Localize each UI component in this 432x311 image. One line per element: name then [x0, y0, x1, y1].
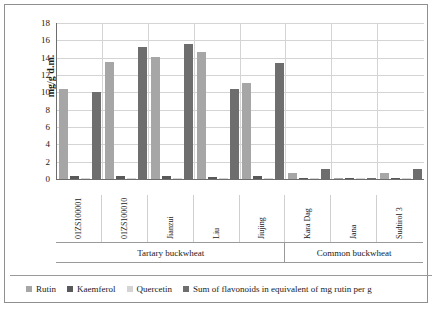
legend-item[interactable]: Quercetin: [127, 284, 172, 294]
category-label: 01ZS100010: [120, 198, 129, 239]
bar: [334, 178, 343, 179]
bar: [391, 178, 400, 179]
category-label-cell: Liu: [194, 195, 240, 242]
category-label-cell: Jiujing: [240, 195, 286, 242]
legend-swatch-icon: [127, 286, 133, 292]
category-label: Jianzui: [166, 216, 175, 239]
group-label-cell: Common buckwheat: [285, 243, 423, 262]
legend-label: Rutin: [36, 284, 56, 294]
bar: [242, 83, 251, 179]
bar: [70, 176, 79, 179]
y-tick-label: 8: [46, 106, 51, 114]
bar: [162, 176, 171, 179]
bar: [402, 178, 411, 179]
category-label: 01ZS100001: [74, 198, 83, 239]
group-label-cell: Tartary buckwheat: [56, 243, 285, 262]
legend-item[interactable]: Rutin: [26, 284, 56, 294]
group-label-row: Tartary buckwheatCommon buckwheat: [56, 243, 423, 263]
y-tick-label: 18: [41, 19, 50, 27]
chart-figure: mg/g d.m. 181614121086420 01ZS10000101ZS…: [0, 0, 432, 311]
bar: [413, 169, 422, 179]
chart-legend: RutinKaemferolQuercetinSum of flavonoids…: [10, 275, 432, 301]
category-label-cell: Jana: [331, 195, 377, 242]
plot-area: [56, 23, 424, 180]
bar-group: [149, 23, 195, 179]
bar: [208, 177, 217, 179]
category-label: Kara Dag: [303, 208, 312, 239]
bar: [81, 178, 90, 179]
legend-swatch-icon: [67, 286, 73, 292]
bar: [92, 92, 101, 179]
bar-group: [332, 23, 378, 179]
y-tick-label: 4: [46, 140, 51, 148]
group-label: Tartary buckwheat: [137, 248, 204, 258]
bar-group: [378, 23, 424, 179]
y-tick-label: 6: [46, 123, 51, 131]
category-label-cell: 01ZS100010: [102, 195, 148, 242]
category-label-cell: Sudtirol 3: [377, 195, 423, 242]
category-label: Jana: [349, 225, 358, 239]
bar: [184, 44, 193, 179]
legend-label: Sum of flavonoids in equivalent of mg ru…: [193, 284, 372, 294]
bar-group: [57, 23, 103, 179]
bar: [219, 178, 228, 179]
y-tick-label: 10: [41, 88, 50, 96]
y-tick-label: 14: [41, 54, 50, 62]
bar: [264, 178, 273, 179]
category-label: Sudtirol 3: [395, 207, 404, 239]
bar: [275, 63, 284, 179]
bar: [299, 178, 308, 179]
bar-group: [195, 23, 241, 179]
bar: [151, 57, 160, 179]
legend-swatch-icon: [183, 286, 189, 292]
bar: [321, 169, 330, 179]
bar: [138, 47, 147, 179]
bar-group: [103, 23, 149, 179]
category-label: Jiujing: [257, 217, 266, 239]
bar: [127, 178, 136, 179]
legend-swatch-icon: [26, 286, 32, 292]
legend-label: Kaemferol: [77, 284, 115, 294]
bar: [59, 89, 68, 179]
category-label-cell: Jianzui: [148, 195, 194, 242]
bar: [116, 176, 125, 179]
bar: [197, 52, 206, 179]
y-tick-label: 16: [41, 36, 50, 44]
y-tick-label: 2: [46, 158, 51, 166]
legend-item[interactable]: Sum of flavonoids in equivalent of mg ru…: [183, 284, 372, 294]
bar-series-container: [57, 23, 424, 179]
category-label-cell: 01ZS100001: [56, 195, 102, 242]
bar-group: [241, 23, 287, 179]
bar: [310, 178, 319, 179]
y-tick-label: 12: [41, 71, 50, 79]
y-tick-label: 0: [46, 175, 51, 183]
bar: [288, 173, 297, 179]
bar-group: [286, 23, 332, 179]
bar: [253, 176, 262, 179]
bar: [105, 62, 114, 179]
bar: [356, 178, 365, 179]
bar: [367, 178, 376, 179]
category-label: Liu: [212, 228, 221, 239]
bar: [230, 89, 239, 179]
group-label: Common buckwheat: [317, 248, 392, 258]
bar: [345, 178, 354, 179]
bar: [380, 173, 389, 180]
category-label-row: 01ZS10000101ZS100010JianzuiLiuJiujingKar…: [56, 195, 423, 243]
y-axis-ticks: 181614121086420: [31, 23, 53, 179]
chart-frame: mg/g d.m. 181614121086420 01ZS10000101ZS…: [4, 4, 428, 303]
legend-label: Quercetin: [137, 284, 172, 294]
legend-item[interactable]: Kaemferol: [67, 284, 115, 294]
category-label-cell: Kara Dag: [285, 195, 331, 242]
plot-block: mg/g d.m. 181614121086420: [31, 23, 423, 195]
bar: [173, 178, 182, 179]
